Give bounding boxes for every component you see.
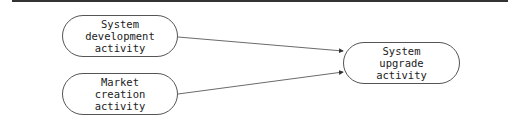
node-label-line: activity: [95, 42, 146, 54]
node-market-creation: Market creation activity: [62, 73, 178, 115]
node-label-line: System: [383, 45, 421, 57]
node-label-line: development: [85, 30, 155, 42]
node-label-line: upgrade: [379, 57, 423, 69]
edge-market-to-upgrade: [178, 72, 343, 94]
node-label-line: activity: [376, 69, 427, 81]
node-system-upgrade: System upgrade activity: [343, 42, 460, 84]
node-label-line: System: [101, 18, 139, 30]
node-system-development: System development activity: [62, 15, 178, 57]
node-label-line: Market: [101, 76, 139, 88]
node-label-line: creation: [95, 88, 146, 100]
edge-development-to-upgrade: [178, 37, 343, 51]
node-label-line: activity: [95, 100, 146, 112]
